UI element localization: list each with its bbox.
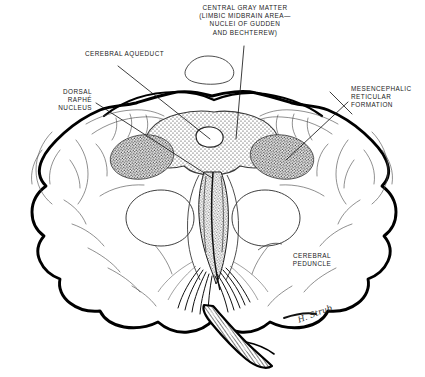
label-mesencephalic-reticular-formation: MESENCEPHALIC RETICULAR FORMATION: [351, 85, 425, 110]
label-central-gray-matter: CENTRAL GRAY MATTER (LIMBIC MIDBRAIN ARE…: [180, 4, 310, 37]
label-dorsal-raphe-nucleus: DORSAL RAPHÉ NUCLEUS: [26, 88, 92, 113]
leader-mesencephalic-rf-cross: [330, 92, 352, 114]
red-nucleus-left: [126, 190, 194, 246]
midbrain-section-illustration: [0, 0, 425, 377]
anatomical-figure: CENTRAL GRAY MATTER (LIMBIC MIDBRAIN ARE…: [0, 0, 425, 377]
label-cerebral-peduncle: CEREBRAL PEDUNCLE: [270, 252, 354, 268]
cerebral-aqueduct-lumen: [196, 127, 223, 147]
dorsal-blob: [185, 56, 234, 84]
label-cerebral-aqueduct: CEREBRAL AQUEDUCT: [72, 50, 177, 58]
red-nucleus-right: [232, 190, 300, 246]
